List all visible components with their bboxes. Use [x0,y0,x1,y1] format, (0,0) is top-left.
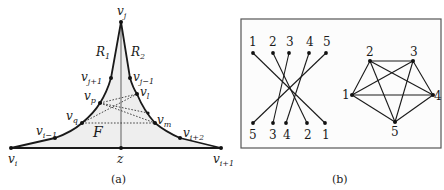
label-vq: vq [66,109,78,125]
svg-text:2: 2 [269,35,277,49]
svg-text:4: 4 [434,89,442,103]
label-vi-plus-1: vi+1 [213,152,234,168]
svg-text:1: 1 [322,128,330,142]
caption-a: (a) [111,173,126,186]
label-vl: vl [140,85,150,101]
label-vi-minus-1: vi−1 [36,124,57,140]
label-vm: vm [157,113,172,129]
svg-text:2: 2 [366,45,374,59]
svg-text:2: 2 [304,128,312,142]
svg-text:5: 5 [249,128,257,142]
caption-b: (b) [332,173,348,186]
panel-b: 1 2 3 4 5 5 3 4 2 1 [241,19,442,186]
label-z: z [116,152,124,166]
svg-text:3: 3 [286,35,294,49]
svg-text:1: 1 [342,88,350,102]
svg-text:5: 5 [323,35,331,49]
svg-text:4: 4 [306,35,314,49]
figure: vj R1 R2 vj+1 vj−1 vp vl vq vm vi−1 vi+2… [0,0,444,190]
label-vp: vp [84,89,96,105]
label-r1: R1 [95,45,110,61]
label-vi: vi [8,152,18,168]
svg-text:3: 3 [410,45,418,59]
svg-text:4: 4 [283,128,291,142]
svg-text:1: 1 [249,35,257,49]
label-r2: R2 [130,45,145,61]
label-vj-plus-1: vj+1 [81,70,102,86]
svg-text:3: 3 [269,128,277,142]
svg-text:5: 5 [391,125,399,139]
panel-a: vj R1 R2 vj+1 vj−1 vp vl vq vm vi−1 vi+2… [8,4,234,186]
label-f: F [92,124,104,140]
label-vj-minus-1: vj−1 [133,70,154,86]
label-vj: vj [117,4,127,20]
label-vi-plus-2: vi+2 [183,126,204,142]
